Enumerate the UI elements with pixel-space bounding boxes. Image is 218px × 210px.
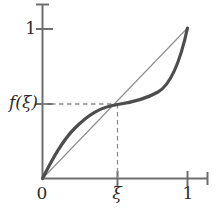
x-axis-tick-label-one: 1 [180,185,196,202]
diagonal-identity-line [43,28,188,179]
x-axis-tick-label-zero: 0 [34,185,50,202]
y-axis-tick-label-one: 1 [20,20,36,37]
y-axis-tick-label-fxi: f(ξ) [0,94,38,111]
x-axis-tick-label-xi: ξ [109,185,125,202]
figure-container: 1 f(ξ) 0 ξ 1 [0,0,218,210]
